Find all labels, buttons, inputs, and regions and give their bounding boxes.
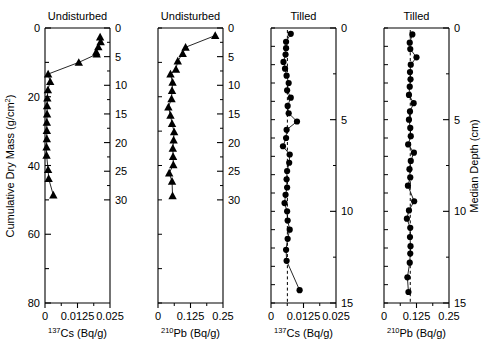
data-markers-tilled-pb [404,31,420,295]
xtick-label-undisturbed-pb-0: 0 [155,310,161,322]
data-point [283,39,289,45]
data-line-undisturbed-cs [47,37,101,195]
data-point [288,31,294,37]
data-point [168,177,176,185]
data-point [405,183,411,189]
data-point [286,110,292,116]
panel-title-undisturbed-pb: Undisturbed [161,10,220,22]
data-point [44,174,52,182]
data-point [297,287,303,293]
data-point [169,144,177,152]
xaxis-label-tilled-pb: 210Pb (Bq/g) [387,326,446,339]
data-point [406,92,412,98]
ytick-depth-label-undisturbed-pb-15: 15 [228,108,240,120]
data-point [284,168,290,174]
ytick-mass-label-0: 0 [34,22,40,34]
data-point [165,169,173,177]
xtick-label-undisturbed-cs-2: 0.025 [96,310,124,322]
ytick-depth-label-undisturbed-cs-15: 15 [115,108,127,120]
data-point [285,217,291,223]
data-point [287,227,293,233]
xtick-label-tilled-pb-1: 0.125 [403,310,431,322]
xtick-label-tilled-cs-1: 0.0125 [287,310,321,322]
data-point [408,133,414,139]
data-point [169,161,177,169]
data-point [211,31,219,39]
data-point [75,58,83,66]
left-axis-title: Cumulative Dry Mass (g/cm2) [3,95,16,238]
data-markers-undisturbed-pb [164,31,219,199]
data-point [282,66,288,72]
ytick-depth-label-tilled-pb-10: 10 [454,205,466,217]
data-point [286,80,292,86]
data-point [283,247,289,253]
data-point [164,103,172,111]
data-point [284,73,290,79]
data-point [169,136,177,144]
ytick-depth-label-undisturbed-cs-5: 5 [115,51,121,63]
ytick-depth-label-tilled-cs-0: 0 [341,22,347,34]
ytick-depth-label-undisturbed-cs-20: 20 [115,137,127,149]
data-point [407,46,413,52]
data-point [49,191,57,199]
data-point [280,143,286,149]
data-point [411,100,417,106]
data-point [168,119,176,127]
data-point [285,236,291,242]
ytick-depth-label-undisturbed-pb-5: 5 [228,51,234,63]
right-axis-title: Median Depth (cm) [468,119,480,213]
data-point [407,225,413,231]
ytick-depth-label-undisturbed-cs-10: 10 [115,79,127,91]
data-line-undisturbed-pb [168,36,215,196]
data-point [411,198,417,204]
data-markers-tilled-cs [280,31,303,294]
data-point [172,65,180,73]
xtick-label-tilled-cs-0: 0 [268,310,274,322]
ytick-mass-label-20: 20 [28,91,40,103]
data-point [405,289,411,295]
data-markers-undisturbed-cs [42,33,104,199]
panel-undisturbed-cs: Undisturbed00.01250.025137Cs (Bq/g)02040… [28,10,128,339]
figure-panel-group: Undisturbed00.01250.025137Cs (Bq/g)02040… [0,0,485,356]
data-point [286,160,292,166]
data-point [404,274,410,280]
data-point [283,45,289,51]
data-point [284,176,290,182]
ytick-depth-label-tilled-cs-10: 10 [341,205,353,217]
data-point [46,77,54,85]
data-point [168,192,176,200]
ytick-depth-label-undisturbed-pb-0: 0 [228,22,234,34]
ytick-depth-label-tilled-pb-0: 0 [454,22,460,34]
data-point [407,243,413,249]
ytick-depth-label-tilled-pb-5: 5 [454,114,460,126]
data-point [406,166,412,172]
data-point [43,118,51,126]
data-point [413,54,419,60]
data-point [409,31,415,37]
ytick-depth-label-undisturbed-cs-30: 30 [115,194,127,206]
data-point [406,117,412,123]
plot-area: Undisturbed00.01250.025137Cs (Bq/g)02040… [28,10,467,339]
data-point [407,40,413,46]
data-point [284,208,290,214]
ytick-mass-label-40: 40 [28,160,40,172]
xtick-label-undisturbed-pb-1: 0.125 [177,310,205,322]
data-point [168,86,176,94]
data-point [169,152,177,160]
data-point [284,184,290,190]
xaxis-label-undisturbed-pb: 210Pb (Bq/g) [161,326,220,339]
data-point [43,110,51,118]
panel-title-undisturbed-cs: Undisturbed [48,10,107,22]
ytick-depth-label-undisturbed-pb-25: 25 [228,165,240,177]
data-point [287,151,293,157]
data-point [43,101,51,109]
data-point [43,94,51,102]
ytick-depth-label-undisturbed-pb-10: 10 [228,79,240,91]
xaxis-label-undisturbed-cs: 137Cs (Bq/g) [48,326,107,339]
data-point [407,125,413,131]
data-point [407,260,413,266]
data-point [284,87,290,93]
xtick-label-tilled-cs-2: 0.025 [322,310,350,322]
xtick-label-tilled-pb-2: 0.25 [438,310,459,322]
data-point [407,76,413,82]
